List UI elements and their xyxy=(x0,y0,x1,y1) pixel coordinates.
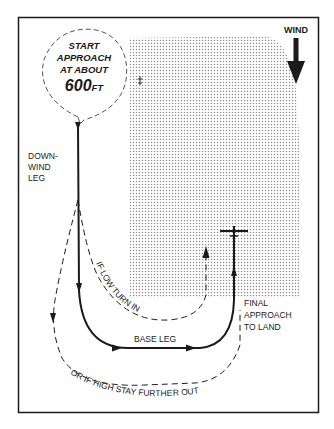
downwind-label-3: LEG xyxy=(28,173,45,183)
base-arrow-2-icon xyxy=(186,345,196,352)
if-high-text: OR IF HIGH STAY FURTHER OUT xyxy=(69,367,200,398)
if-high-arrow-icon xyxy=(50,313,56,323)
approach-label: APPROACH xyxy=(56,52,113,63)
start-label: START xyxy=(69,40,101,51)
downwind-label-2: WIND xyxy=(28,162,51,172)
base-arrow-1-icon xyxy=(112,345,122,352)
wind-label: WIND xyxy=(284,25,308,35)
start-approach-bubble: START APPROACH AT ABOUT 600FT xyxy=(42,29,126,124)
downwind-mid-arrow-icon xyxy=(76,283,82,293)
circuit-diagram: START APPROACH AT ABOUT 600FT WIND DOWN-… xyxy=(0,0,334,429)
final-label-3: TO LAND xyxy=(244,322,281,332)
at-about-label: AT ABOUT xyxy=(59,64,109,75)
altitude-unit: FT xyxy=(92,82,105,93)
if-high-label: OR IF HIGH STAY FURTHER OUT xyxy=(69,367,200,398)
downwind-label-1: DOWN- xyxy=(28,151,58,161)
altitude-value: 600 xyxy=(65,77,92,94)
final-label-2: APPROACH xyxy=(244,310,292,320)
downwind-arrow-icon xyxy=(75,122,81,130)
wind-arrow-shaft xyxy=(294,38,299,62)
altitude-label: 600FT xyxy=(65,77,105,94)
final-label-1: FINAL xyxy=(244,298,268,308)
airfield-shaded-area xyxy=(130,36,300,298)
base-leg-label: BASE LEG xyxy=(134,334,176,344)
